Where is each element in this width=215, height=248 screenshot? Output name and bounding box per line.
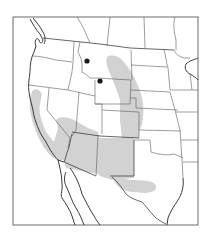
range-map bbox=[0, 0, 215, 248]
range-map-svg bbox=[0, 0, 215, 248]
record-dot-wyoming bbox=[97, 78, 102, 83]
record-dot-montana bbox=[84, 58, 89, 63]
